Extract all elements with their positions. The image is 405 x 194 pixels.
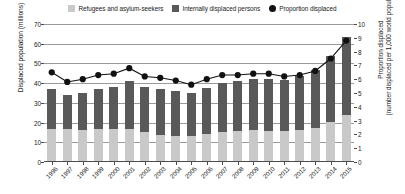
legend-item-idp: Internally displaced persons [172, 5, 260, 12]
proportion-data-point [49, 69, 55, 75]
y-axis-right-tickmark [354, 52, 357, 53]
y-axis-right-tick-label: 2 [358, 131, 362, 138]
legend-label-proportion: Proportion displaced [279, 5, 336, 12]
y-axis-right-tick-label: 3 [358, 117, 362, 124]
y-axis-right-tickmark [354, 24, 357, 25]
y-axis-left-tick-label: 10 [34, 139, 41, 146]
plot-area: 010203040506070 012345678910 19961997199… [44, 24, 354, 162]
proportion-data-point [204, 76, 210, 82]
y-axis-right-tickmark [354, 148, 357, 149]
proportion-line-path [52, 41, 347, 85]
y-axis-left-tick-label: 20 [34, 119, 41, 126]
y-axis-right-tick-label: 7 [358, 62, 362, 69]
chart-figure: Refugees and asylum-seekers Internally d… [0, 0, 405, 194]
proportion-data-point [111, 71, 117, 77]
y-axis-left-tick-label: 70 [34, 21, 41, 28]
x-axis-line [44, 161, 354, 162]
proportion-data-point [173, 77, 179, 83]
y-axis-right-tick-label: 8 [358, 48, 362, 55]
proportion-data-point [219, 72, 225, 78]
legend-item-proportion: Proportion displaced [269, 5, 336, 12]
proportion-data-point [95, 72, 101, 78]
proportion-data-point [126, 65, 132, 71]
y-axis-left-tick-label: 60 [34, 40, 41, 47]
y-axis-right-tick-label: 10 [358, 21, 365, 28]
y-axis-right-tickmark [354, 107, 357, 108]
legend-label-idp: Internally displaced persons [182, 5, 260, 12]
y-axis-right-title-line1: Proportion displaced [377, 20, 384, 78]
proportion-line-series [44, 24, 354, 162]
y-axis-right-tickmark [354, 162, 357, 163]
y-axis-right-tickmark [354, 38, 357, 39]
proportion-data-point [312, 68, 318, 74]
proportion-data-point [297, 72, 303, 78]
proportion-data-point [343, 37, 349, 43]
legend-item-refugees: Refugees and asylum-seekers [68, 5, 163, 12]
y-axis-left-tick-label: 50 [34, 60, 41, 67]
proportion-data-point [80, 76, 86, 82]
y-axis-right-tickmark [354, 79, 357, 80]
circle-marker-icon [269, 5, 276, 12]
y-axis-left-tick-label: 30 [34, 99, 41, 106]
y-axis-right-tick-label: 4 [358, 103, 362, 110]
y-axis-right-tickmark [354, 65, 357, 66]
y-axis-right-tick-label: 6 [358, 76, 362, 83]
square-swatch-icon [172, 5, 179, 12]
proportion-data-point [64, 79, 70, 85]
proportion-data-point [188, 82, 194, 88]
y-axis-right-tickmark [354, 121, 357, 122]
proportion-data-point [142, 73, 148, 79]
y-axis-right-tick-label: 0 [358, 159, 362, 166]
square-swatch-icon [68, 5, 75, 12]
y-axis-left-tick-label: 40 [34, 80, 41, 87]
proportion-data-point [157, 75, 163, 81]
proportion-data-point [328, 55, 334, 61]
proportion-data-point [266, 71, 272, 77]
proportion-data-point [281, 73, 287, 79]
y-axis-left-tickmark [41, 162, 44, 163]
chart-legend: Refugees and asylum-seekers Internally d… [0, 2, 405, 14]
y-axis-right-title-line2: (number displaced per 1,000 world popula… [385, 0, 393, 120]
legend-label-refugees: Refugees and asylum-seekers [78, 5, 163, 12]
y-axis-right-tick-label: 5 [358, 90, 362, 97]
y-axis-left-title: Displaced population (millions) [17, 0, 24, 116]
y-axis-right-title: Proportion displaced (number displaced p… [377, 0, 392, 120]
y-axis-right-tick-label: 1 [358, 145, 362, 152]
y-axis-right-tickmark [354, 134, 357, 135]
proportion-data-point [235, 72, 241, 78]
y-axis-right-tickmark [354, 93, 357, 94]
y-axis-right-tick-label: 9 [358, 34, 362, 41]
proportion-data-point [250, 71, 256, 77]
